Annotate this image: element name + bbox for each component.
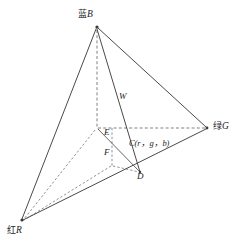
edge-E-R-dashed [24, 130, 95, 219]
dashed-edge-group [24, 30, 205, 220]
label-white-point: W [119, 92, 127, 101]
vertex-dot-R [20, 218, 23, 221]
label-color-point-c: C(r，g，b) [129, 139, 169, 148]
edge-B-R [22, 29, 96, 219]
label-red-cjk: 红 [7, 225, 16, 235]
vertex-dot-G [206, 127, 209, 130]
label-point-f: F [104, 148, 110, 157]
diagram-canvas [0, 0, 243, 245]
edge-B-G [98, 28, 206, 127]
label-blue-latin: B [87, 9, 93, 19]
label-green-cjk: 绿 [213, 121, 222, 131]
label-point-e: E [104, 128, 110, 137]
edge-F-R-dashed [24, 166, 111, 220]
vertex-dot-B [95, 25, 98, 28]
label-point-d: D [137, 172, 144, 181]
label-red-latin: R [16, 225, 22, 235]
label-blue-cjk: 蓝 [78, 9, 87, 19]
rgb-tetrahedron-diagram: 蓝B 绿G 红R W E F D C(r，g，b) [0, 0, 243, 245]
label-blue-vertex: 蓝B [78, 10, 93, 20]
label-green-latin: G [222, 121, 229, 131]
edge-R-G [23, 129, 206, 220]
vertex-dot-group [20, 25, 208, 221]
label-red-vertex: 红R [7, 226, 22, 236]
solid-edge-group [22, 28, 206, 220]
label-green-vertex: 绿G [213, 122, 229, 132]
